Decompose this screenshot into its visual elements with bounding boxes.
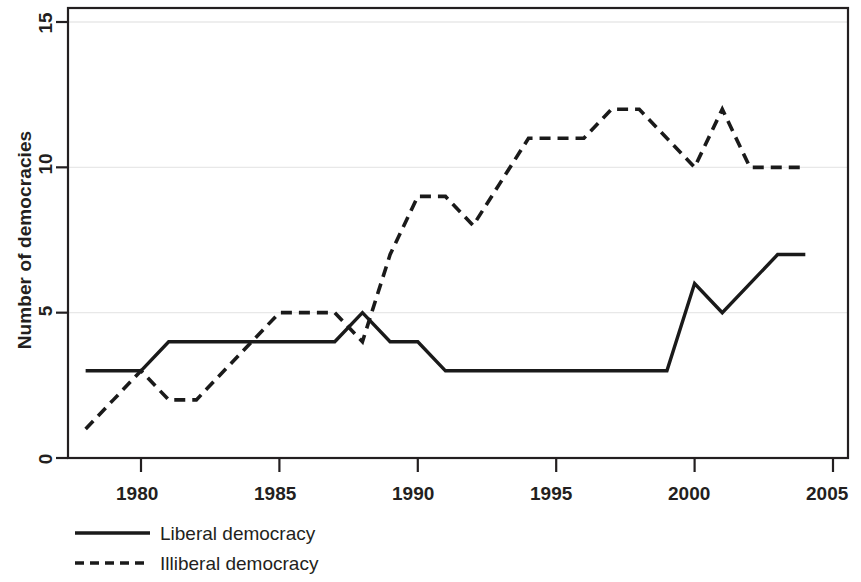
y-tick-label-5: 5	[35, 303, 57, 319]
x-tick-label-2000: 2000	[668, 483, 710, 505]
plot-frame	[68, 8, 848, 458]
x-tick-label-2005: 2005	[806, 483, 848, 505]
axis-tickmarks	[56, 22, 833, 472]
x-tick-label-1995: 1995	[530, 483, 572, 505]
legend-keys	[75, 533, 150, 563]
series-line-illiberal-democracy	[86, 109, 806, 429]
gridlines	[68, 22, 848, 458]
y-tick-label-0: 0	[35, 451, 57, 467]
x-tick-label-1985: 1985	[254, 483, 296, 505]
y-tick-label-10: 10	[35, 150, 57, 178]
data-series-group	[86, 109, 806, 429]
legend-label-liberal: Liberal democracy	[160, 523, 315, 545]
legend-label-illiberal: Illiberal democracy	[160, 553, 318, 575]
chart-figure: Number of democracies 15 10 5 0 1980 198…	[0, 0, 861, 582]
x-tick-label-1980: 1980	[116, 483, 158, 505]
y-tick-label-15: 15	[35, 9, 57, 37]
x-tick-label-1990: 1990	[392, 483, 434, 505]
